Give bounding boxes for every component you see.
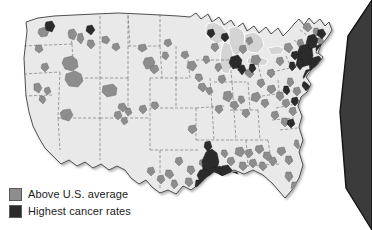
legend-item-highest-rates: Highest cancer rates bbox=[9, 204, 131, 219]
map-legend: Above U.S. average Highest cancer rates bbox=[9, 187, 131, 219]
legend-swatch-above-average bbox=[9, 188, 22, 201]
legend-swatch-highest-rates bbox=[9, 205, 22, 218]
legend-label-highest-rates: Highest cancer rates bbox=[28, 205, 131, 218]
figure-canvas: Above U.S. average Highest cancer rates bbox=[0, 0, 372, 230]
legend-item-above-average: Above U.S. average bbox=[9, 187, 131, 202]
legend-label-above-average: Above U.S. average bbox=[28, 188, 128, 201]
